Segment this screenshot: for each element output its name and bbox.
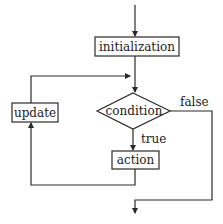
condition-label: condition xyxy=(106,104,163,118)
initialization-node: initialization xyxy=(95,37,179,56)
initialization-label: initialization xyxy=(99,40,175,54)
action-label: action xyxy=(117,153,155,167)
update-node: update xyxy=(12,103,58,122)
update-label: update xyxy=(14,106,56,120)
action-node: action xyxy=(112,151,159,169)
condition-node: condition xyxy=(97,93,170,129)
false-edge-label: false xyxy=(180,95,209,109)
true-edge-label: true xyxy=(141,132,166,146)
update-to-condition-arrow xyxy=(31,76,130,103)
flowchart-diagram: initialization condition false true acti… xyxy=(0,0,223,224)
